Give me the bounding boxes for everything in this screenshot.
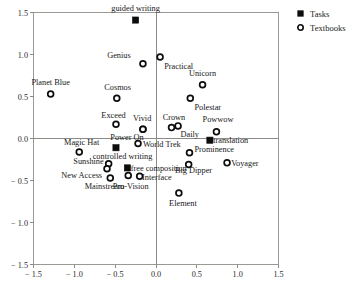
data-point-tasks[interactable] — [113, 145, 119, 151]
data-point-textbooks[interactable] — [224, 160, 230, 166]
x-tick-label: − 0.5 — [107, 270, 124, 279]
legend-item-textbooks: Textbooks — [296, 22, 346, 33]
open-circle-icon — [296, 23, 305, 32]
y-tick-label: 0.5 — [18, 93, 28, 102]
legend-label-tasks: Tasks — [310, 9, 329, 19]
x-tick-label: − 1.0 — [66, 270, 83, 279]
y-tick-label: − 1.5 — [11, 261, 28, 270]
point-label: Element — [169, 199, 197, 208]
x-tick-label: 1.5 — [273, 270, 283, 279]
data-point-textbooks[interactable] — [125, 173, 131, 179]
data-point-textbooks[interactable] — [113, 121, 119, 127]
point-label: Exceed — [101, 111, 126, 120]
point-label: Planet Blue — [31, 78, 70, 87]
data-point-textbooks[interactable] — [187, 150, 193, 156]
point-label: Polestar — [194, 103, 221, 112]
data-point-textbooks[interactable] — [104, 166, 110, 172]
point-label: Prominence — [194, 145, 234, 154]
plot-area: − 1.5− 1.0− 0.50.00.51.01.51.51.00.50.0−… — [0, 0, 356, 296]
point-label: World Trek — [143, 140, 182, 149]
legend-item-tasks: Tasks — [296, 8, 346, 19]
data-point-textbooks[interactable] — [135, 141, 141, 147]
x-tick-label: 0.0 — [151, 270, 161, 279]
data-point-textbooks[interactable] — [114, 95, 120, 101]
y-tick-label: 0.0 — [18, 135, 28, 144]
data-point-tasks[interactable] — [132, 17, 138, 23]
point-label: Genius — [107, 51, 131, 60]
point-label: Big Dipper — [175, 166, 212, 175]
point-label: Voyager — [231, 159, 259, 168]
filled-square-icon — [296, 9, 305, 18]
data-point-textbooks[interactable] — [48, 91, 54, 97]
data-point-textbooks[interactable] — [157, 54, 163, 60]
point-label: Sunshine — [73, 157, 104, 166]
data-point-textbooks[interactable] — [187, 95, 193, 101]
data-point-textbooks[interactable] — [76, 149, 82, 155]
data-point-textbooks[interactable] — [214, 129, 220, 135]
x-tick-label: 1.0 — [233, 270, 243, 279]
data-point-textbooks[interactable] — [175, 123, 181, 129]
point-label: Powwow — [203, 115, 234, 124]
data-point-textbooks[interactable] — [200, 82, 206, 88]
point-label: Cosmos — [104, 83, 131, 92]
point-label: Unicorn — [189, 69, 217, 78]
point-label: Vivid — [133, 114, 152, 123]
y-tick-label: − 1.0 — [11, 219, 28, 228]
data-point-textbooks[interactable] — [176, 190, 182, 196]
point-label: Crown — [163, 113, 186, 122]
y-tick-label: 1.0 — [18, 51, 28, 60]
data-point-tasks[interactable] — [124, 165, 130, 171]
point-label: guided writing — [111, 4, 160, 13]
data-point-textbooks[interactable] — [140, 126, 146, 132]
data-point-textbooks[interactable] — [107, 175, 113, 181]
point-label: New Access — [61, 171, 102, 180]
x-tick-label: 0.5 — [192, 270, 202, 279]
legend-label-textbooks: Textbooks — [310, 23, 346, 33]
data-point-tasks[interactable] — [207, 137, 213, 143]
y-tick-label: − 0.5 — [11, 177, 28, 186]
point-label: Magic Hat — [64, 138, 100, 147]
data-point-textbooks[interactable] — [140, 61, 146, 67]
point-label: Daily — [181, 130, 200, 139]
data-point-textbooks[interactable] — [169, 125, 175, 131]
chart-legend: Tasks Textbooks — [296, 8, 346, 33]
point-label: Pro-Vision — [113, 182, 150, 191]
y-tick-label: 1.5 — [18, 9, 28, 18]
x-tick-label: − 1.5 — [25, 270, 42, 279]
scatter-chart: − 1.5− 1.0− 0.50.00.51.01.51.51.00.50.0−… — [0, 0, 356, 296]
